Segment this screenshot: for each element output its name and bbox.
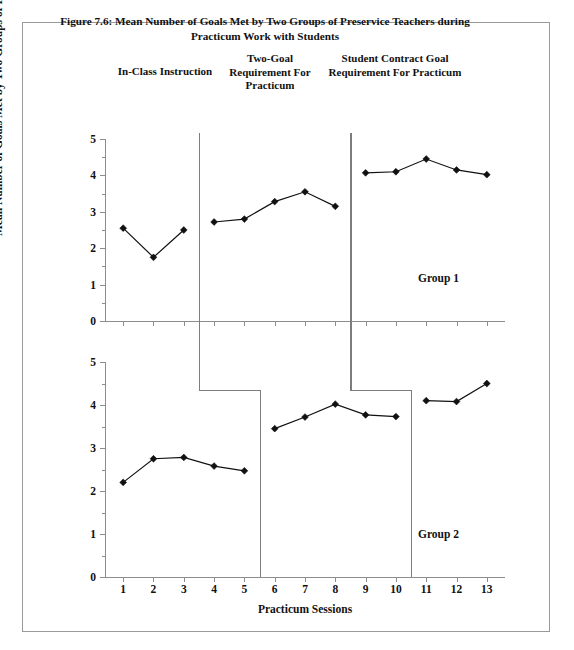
x-tick: [335, 577, 336, 582]
y-tick-label: 5: [90, 356, 96, 368]
data-point-marker: [180, 454, 187, 461]
data-point-marker: [453, 398, 460, 405]
y-tick-label: 0: [90, 571, 96, 583]
x-tick-label: 8: [332, 583, 338, 595]
phase-divider-upper: [350, 133, 351, 390]
x-tick-label: 2: [151, 583, 157, 595]
phase-divider-lower: [260, 390, 261, 577]
data-point-marker: [423, 397, 430, 404]
y-tick-label: 5: [90, 133, 96, 145]
phase-label-in-class-instruction: In-Class Instruction: [110, 65, 220, 79]
y-axis-title: Mean Number of Goals Met by Two Groups o…: [0, 0, 4, 236]
x-tick: [153, 577, 154, 582]
x-tick: [153, 321, 154, 326]
y-tick: [100, 577, 105, 578]
x-tick: [396, 321, 397, 326]
x-tick: [123, 321, 124, 326]
x-tick-label: 10: [390, 583, 402, 595]
data-point-marker: [393, 413, 400, 420]
y-tick-label: 3: [90, 442, 96, 454]
data-point-marker: [211, 219, 218, 226]
y-tick-label: 2: [90, 242, 96, 254]
x-tick: [275, 321, 276, 326]
x-tick-label: 5: [242, 583, 248, 595]
figure-title: Figure 7.6: Mean Number of Goals Met by …: [40, 14, 490, 44]
x-tick: [244, 577, 245, 582]
x-tick: [335, 321, 336, 326]
y-tick-label: 0: [90, 315, 96, 327]
data-point-marker: [271, 425, 278, 432]
data-point-marker: [302, 188, 309, 195]
data-point-marker: [302, 414, 309, 421]
x-tick-label: 4: [211, 583, 217, 595]
x-tick: [426, 577, 427, 582]
x-tick-label: 6: [272, 583, 278, 595]
data-point-marker: [423, 156, 430, 163]
data-point-marker: [332, 401, 339, 408]
y-tick-label: 1: [90, 528, 96, 540]
data-point-marker: [453, 167, 460, 174]
y-tick-label: 1: [90, 279, 96, 291]
x-tick: [366, 577, 367, 582]
x-tick-label: 7: [302, 583, 308, 595]
data-point-marker: [241, 216, 248, 223]
x-tick: [396, 577, 397, 582]
chart-panel-group-1: 012345: [105, 139, 505, 321]
data-point-marker: [362, 411, 369, 418]
x-axis-title: Practicum Sessions: [105, 603, 505, 615]
series-line: [123, 228, 184, 257]
series-line: [214, 192, 335, 222]
data-point-marker: [393, 168, 400, 175]
phase-label-two-goal-requirement: Two-Goal Requirement For Practicum: [215, 52, 325, 93]
x-tick-label: 13: [481, 583, 493, 595]
x-tick: [123, 577, 124, 582]
x-tick: [214, 577, 215, 582]
y-tick-label: 3: [90, 206, 96, 218]
data-point-marker: [483, 171, 490, 178]
series-group: [105, 362, 505, 577]
data-point-marker: [241, 467, 248, 474]
x-tick: [184, 321, 185, 326]
data-point-marker: [211, 463, 218, 470]
y-tick-label: 4: [90, 399, 96, 411]
x-tick-label: 1: [120, 583, 126, 595]
x-tick: [214, 321, 215, 326]
x-tick: [305, 321, 306, 326]
data-point-marker: [332, 203, 339, 210]
x-tick: [275, 577, 276, 582]
y-tick: [100, 321, 105, 322]
x-tick: [244, 321, 245, 326]
phase-divider-step: [350, 390, 412, 391]
x-tick: [426, 321, 427, 326]
phase-divider-upper: [199, 133, 200, 390]
phase-label-student-contract-goal-requirement: Student Contract Goal Requirement For Pr…: [320, 52, 470, 79]
y-tick-label: 4: [90, 169, 96, 181]
x-tick: [305, 577, 306, 582]
x-tick: [487, 577, 488, 582]
phase-divider-lower: [411, 390, 412, 577]
x-tick-label: 9: [363, 583, 369, 595]
x-tick: [457, 321, 458, 326]
x-tick: [457, 577, 458, 582]
x-tick-label: 12: [451, 583, 463, 595]
x-tick-label: 11: [421, 583, 432, 595]
x-tick: [184, 577, 185, 582]
x-tick: [366, 321, 367, 326]
data-point-marker: [362, 169, 369, 176]
chart-panel-group-2: 01234512345678910111213: [105, 362, 505, 577]
x-tick: [487, 321, 488, 326]
series-group: [105, 139, 505, 321]
y-tick-label: 2: [90, 485, 96, 497]
x-tick-label: 3: [181, 583, 187, 595]
phase-divider-step: [199, 390, 261, 391]
data-point-marker: [483, 380, 490, 387]
data-point-marker: [271, 198, 278, 205]
